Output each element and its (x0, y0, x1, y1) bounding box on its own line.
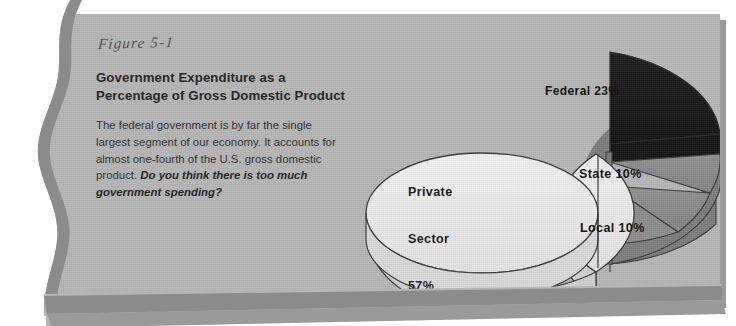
pie-chart: Federal 23% State 10% Local 10% Private … (348, 36, 720, 300)
figure-body-text: The federal government is by far the sin… (96, 117, 346, 201)
private-label-line1: Private (408, 185, 453, 201)
data-label-state: State 10% (579, 167, 642, 183)
page-bottom-edge (0, 270, 736, 326)
figure-heading: Government Expenditure as a Percentage o… (96, 69, 346, 104)
data-label-federal: Federal 23% (545, 84, 619, 99)
figure-caption-handwritten: Figure 5-1 (97, 29, 346, 53)
slice-federal (610, 52, 720, 144)
pie-chart-svg (348, 36, 720, 300)
page-surface: Figure 5-1 Government Expenditure as a P… (30, 14, 720, 300)
private-label-line2: Sector (408, 232, 453, 248)
data-label-local: Local 10% (580, 221, 645, 237)
text-column: Figure 5-1 Government Expenditure as a P… (96, 22, 346, 201)
scanned-textbook-page: Figure 5-1 Government Expenditure as a P… (0, 0, 736, 326)
